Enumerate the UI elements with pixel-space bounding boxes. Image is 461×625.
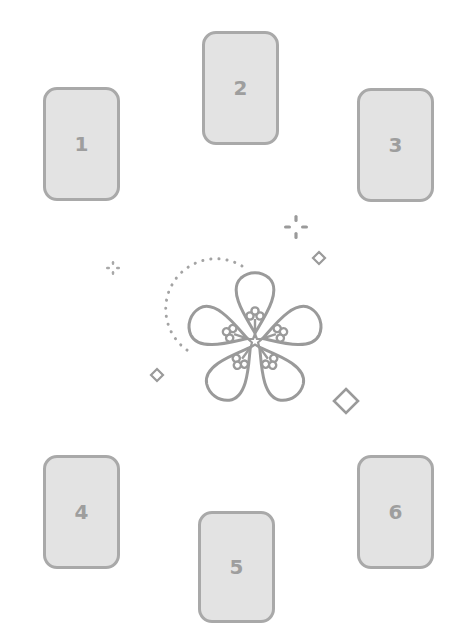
diamond-icon (151, 369, 163, 381)
sparkle-icon (284, 215, 308, 239)
diamond-icon (313, 252, 325, 264)
center-ornament (0, 0, 461, 625)
sparkle-icon (106, 261, 120, 275)
blossom-center (248, 334, 262, 348)
plum-blossom-icon (184, 273, 325, 408)
diamond-icon (334, 389, 358, 413)
